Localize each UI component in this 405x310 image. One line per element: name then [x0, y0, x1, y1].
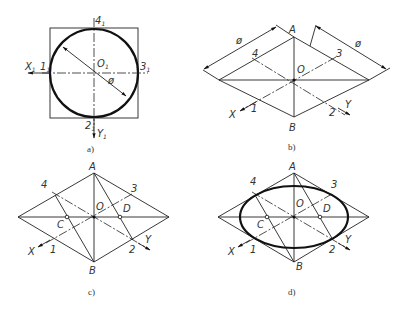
label-2: 2	[329, 107, 335, 118]
extension-line	[310, 25, 316, 46]
label-y: Y	[145, 234, 152, 245]
center-point	[92, 215, 95, 218]
center-point	[292, 215, 295, 218]
label-o-1: O1	[97, 58, 109, 70]
extension-line	[369, 68, 390, 80]
label-a: A	[288, 24, 296, 35]
label-2: 2	[329, 244, 335, 255]
label-1-1: 11	[40, 61, 50, 73]
label-c: C	[57, 219, 64, 230]
caption-b: b)	[288, 142, 296, 152]
label-4: 4	[41, 179, 47, 190]
label-d: D	[323, 203, 331, 214]
label-4: 4	[250, 176, 256, 187]
label-y-1: Y1	[97, 128, 107, 140]
x-axis-centerline	[245, 57, 336, 108]
label-x-1: X1	[24, 61, 36, 73]
label-1: 1	[251, 103, 257, 114]
panel-b: A B O 1 2 3 4 X Y ø ø b)	[203, 24, 390, 152]
panel-c: A B O C D 1 2 3 4 X Y c)	[18, 161, 169, 297]
point-d	[118, 215, 122, 219]
point-d	[318, 215, 322, 219]
label-c: C	[257, 219, 264, 230]
label-3: 3	[131, 183, 137, 194]
label-x: X	[227, 246, 236, 257]
extension-line	[203, 70, 219, 80]
label-b: B	[89, 265, 96, 276]
point-c	[65, 215, 69, 219]
caption-a: a)	[87, 144, 94, 154]
diameter-symbol: ø	[107, 75, 115, 86]
label-3: 3	[336, 48, 342, 59]
label-y: Y	[345, 99, 352, 110]
center-point	[292, 78, 295, 81]
caption-c: c)	[88, 287, 95, 297]
label-d: D	[123, 203, 131, 214]
label-b: B	[296, 261, 303, 272]
diameter-dimension-left	[204, 27, 276, 69]
label-2: 2	[129, 244, 135, 255]
diameter-symbol-left: ø	[235, 35, 243, 46]
label-3: 3	[331, 179, 337, 190]
label-4: 4	[252, 48, 258, 59]
label-1: 1	[50, 244, 56, 255]
label-o: O	[296, 198, 304, 209]
caption-d: d)	[288, 287, 296, 297]
label-a: A	[88, 161, 96, 172]
label-b: B	[289, 122, 296, 133]
label-x: X	[27, 246, 36, 257]
diameter-symbol-right: ø	[354, 38, 362, 49]
label-1: 1	[250, 244, 256, 255]
label-4-1: 41	[95, 15, 105, 27]
x-axis-arrow	[38, 240, 50, 247]
label-a: A	[288, 161, 296, 172]
isometric-ellipse-construction-figure: 41 21 11 31 O1 X1 Y1 ø a) A B O 1	[0, 0, 405, 310]
x-axis-arrow	[238, 240, 250, 247]
label-o: O	[297, 64, 305, 75]
panel-d: A B O C D 1 2 3 4 X Y d)	[218, 161, 369, 297]
label-x: X	[228, 109, 237, 120]
label-o: O	[96, 201, 104, 212]
label-y: Y	[345, 234, 352, 245]
label-3-1: 31	[140, 61, 150, 73]
point-c	[265, 215, 269, 219]
diameter-dimension	[63, 47, 126, 96]
panel-a: 41 21 11 31 O1 X1 Y1 ø a)	[24, 15, 150, 154]
